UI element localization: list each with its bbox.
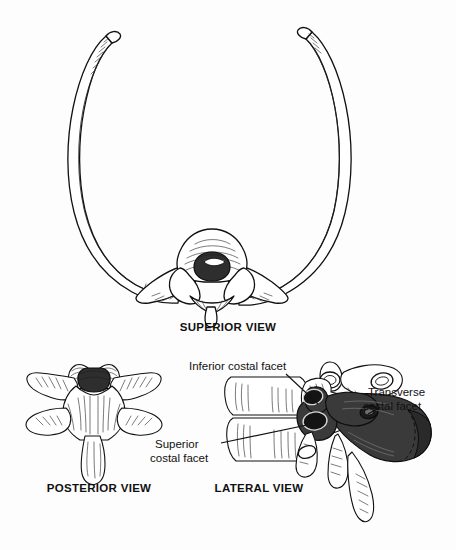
anatomy-figure: SUPERIOR VIEW	[0, 0, 456, 550]
caption-lateral-view: LATERAL VIEW	[215, 482, 304, 494]
caption-superior-view: SUPERIOR VIEW	[180, 321, 277, 333]
label-inferior-costal-facet-text: Inferior costal facet	[189, 360, 287, 372]
spinous-process-posterior	[81, 436, 105, 485]
label-superior-costal-facet-line1: Superior	[155, 438, 199, 450]
label-transverse-costal-facet-line2: costal facet	[363, 400, 422, 412]
label-superior-costal-facet-line2: costal facet	[150, 452, 209, 464]
label-transverse-costal-facet: Transverse costal facet	[363, 386, 425, 414]
vertebral-canal-posterior	[78, 368, 110, 392]
caption-posterior-view: POSTERIOR VIEW	[47, 482, 152, 494]
label-transverse-costal-facet-line1: Transverse	[368, 386, 425, 398]
